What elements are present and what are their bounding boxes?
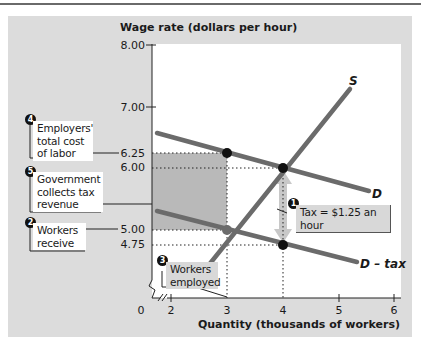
point-d-tax-at-4 bbox=[278, 240, 288, 250]
point-equilibrium-no-tax bbox=[278, 163, 288, 173]
note-text: of labor bbox=[37, 147, 89, 160]
x-axis-title: Quantity (thousands of workers) bbox=[198, 318, 400, 331]
note-text: revenue bbox=[37, 198, 99, 211]
point-employer-cost bbox=[222, 148, 232, 158]
note-government-revenue: Government collects tax revenue bbox=[33, 172, 103, 212]
supply-label: S bbox=[349, 74, 358, 88]
note-tax: Tax = $1.25 an hour bbox=[296, 205, 391, 233]
y-tick-label: 6.25 bbox=[121, 147, 146, 160]
note-workers-receive: Workers receive bbox=[33, 223, 86, 250]
x-tick-label: 3 bbox=[224, 304, 231, 317]
y-tick-label: 7.00 bbox=[121, 101, 146, 114]
point-workers-receive bbox=[222, 225, 232, 235]
note-text: receive bbox=[37, 237, 82, 250]
note-text: Tax = $1.25 an hour bbox=[300, 206, 386, 231]
note-text: total cost bbox=[37, 135, 89, 148]
demand-label: D bbox=[372, 187, 382, 201]
x-tick-label: 2 bbox=[168, 304, 175, 317]
note-text: collects tax bbox=[37, 186, 99, 199]
x-tick-label: 4 bbox=[280, 304, 287, 317]
y-tick-label: 8.00 bbox=[121, 39, 146, 52]
y-tick-label: 4.75 bbox=[121, 238, 146, 251]
x-tick-label: 0 bbox=[138, 304, 145, 317]
note-employers-cost: Employers' total cost of labor bbox=[33, 121, 93, 161]
y-tick-label: 5.00 bbox=[121, 223, 146, 236]
y-axis-title: Wage rate (dollars per hour) bbox=[120, 21, 297, 34]
note-text: Workers bbox=[37, 224, 82, 237]
x-tick-label: 5 bbox=[336, 304, 343, 317]
note-workers-employed: Workers employed bbox=[166, 262, 218, 289]
note-text: employed bbox=[170, 276, 214, 289]
demand-tax-label: D – tax bbox=[360, 257, 407, 271]
note-text: Employers' bbox=[37, 122, 89, 135]
note-text: Government bbox=[37, 173, 99, 186]
x-tick-label: 6 bbox=[391, 304, 398, 317]
y-tick-label: 6.00 bbox=[121, 161, 146, 174]
note-text: Workers bbox=[170, 263, 214, 276]
